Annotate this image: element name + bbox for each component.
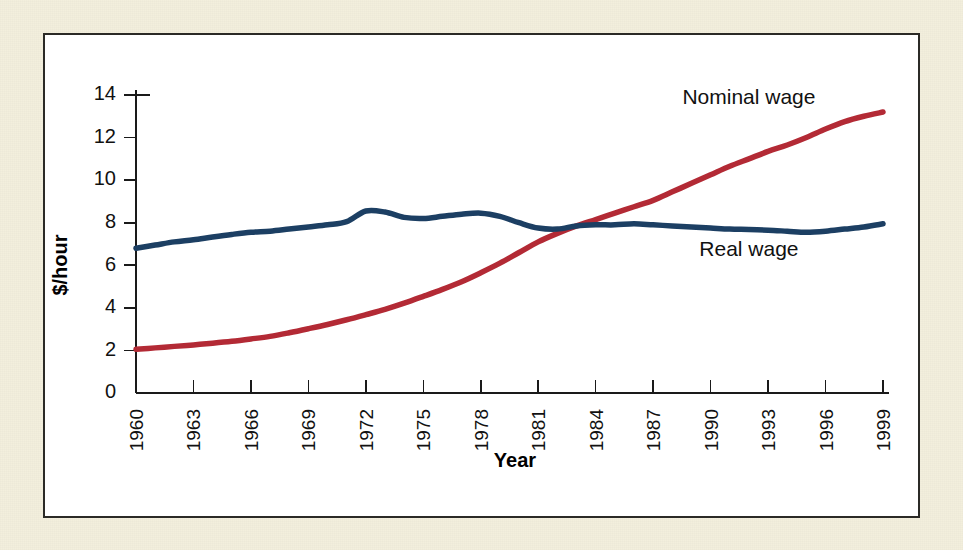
figure-root: 02468101214 1960196319661969197219751978… <box>0 0 963 550</box>
x-tick-label: 1996 <box>816 409 837 451</box>
y-tick-label: 6 <box>105 253 116 275</box>
series-label-nominal-wage: Nominal wage <box>682 85 815 108</box>
x-tick-label: 1984 <box>586 409 607 452</box>
y-tick-label: 0 <box>105 380 116 402</box>
y-tick-label: 12 <box>94 125 116 147</box>
line-chart: 02468101214 1960196319661969197219751978… <box>45 35 918 516</box>
x-tick-label: 1972 <box>356 409 377 451</box>
x-tick-label: 1993 <box>758 409 779 451</box>
x-tick-label: 1966 <box>241 409 262 451</box>
y-tick-label: 2 <box>105 338 116 360</box>
x-tick-label: 1963 <box>183 409 204 451</box>
x-tick-label: 1978 <box>471 409 492 451</box>
chart-panel: 02468101214 1960196319661969197219751978… <box>43 33 920 518</box>
y-axis-tick-labels: 02468101214 <box>94 82 116 402</box>
x-tick-label: 1975 <box>413 409 434 451</box>
x-tick-label: 1960 <box>126 409 147 451</box>
x-tick-label: 1969 <box>298 409 319 451</box>
x-tick-label: 1981 <box>528 409 549 451</box>
x-axis-title: Year <box>494 449 536 471</box>
y-tick-label: 4 <box>105 295 116 317</box>
x-axis-tick-labels: 1960196319661969197219751978198119841987… <box>126 409 894 452</box>
y-tick-label: 14 <box>94 82 116 104</box>
y-axis-title: $/hour <box>49 234 71 295</box>
y-tick-label: 8 <box>105 210 116 232</box>
x-tick-label: 1999 <box>873 409 894 451</box>
y-tick-label: 10 <box>94 167 116 189</box>
x-tick-label: 1990 <box>701 409 722 451</box>
x-axis-ticks <box>136 380 883 393</box>
x-tick-label: 1987 <box>643 409 664 451</box>
series-label-real-wage: Real wage <box>699 237 798 260</box>
series-group <box>136 112 883 349</box>
